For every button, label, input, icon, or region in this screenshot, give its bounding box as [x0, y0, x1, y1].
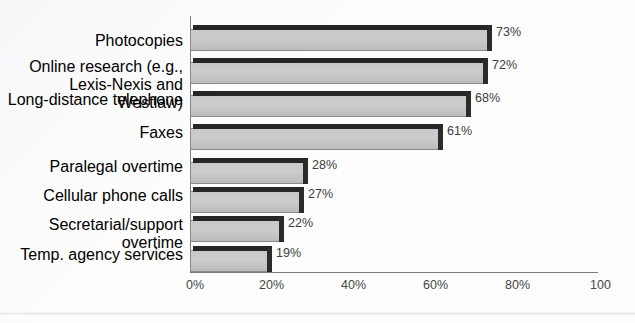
x-tick-label-20: 20%	[259, 278, 284, 292]
category-label-text: Faxes	[139, 124, 183, 141]
x-tick-label-60: 60%	[423, 278, 448, 292]
x-tick-label-0: 0%	[186, 278, 204, 292]
category-label-cellular-phone-calls: Cellular phone calls	[0, 187, 183, 205]
bar-temp-agency-services	[190, 250, 268, 272]
category-label-photocopies: Photocopies	[0, 32, 183, 50]
category-label-text: Cellular phone calls	[43, 187, 183, 204]
category-label-temp-agency-services: Temp. agency services	[0, 246, 183, 264]
bar-chart: Photocopies Online research (e.g., Lexis…	[0, 0, 635, 323]
bar-value-label: 19%	[276, 246, 301, 260]
x-tick-label-40: 40%	[341, 278, 366, 292]
category-label-paralegal-overtime: Paralegal overtime	[0, 158, 183, 176]
bar-faxes	[190, 128, 439, 150]
category-label-text: Photocopies	[95, 32, 183, 49]
category-label-text: Long-distance telephone	[8, 91, 183, 108]
x-tick-label-100: 100	[590, 278, 611, 292]
category-label-faxes: Faxes	[0, 124, 183, 142]
plot-area: 73% 72% 68% 61% 28% 27% 22% 19%	[190, 16, 598, 272]
bar-value-label: 27%	[308, 187, 333, 201]
bar-online-research	[190, 62, 484, 84]
bar-long-distance-telephone	[190, 95, 467, 117]
x-axis-line	[190, 272, 598, 273]
bar-value-label: 28%	[312, 158, 337, 172]
bar-value-label: 61%	[447, 124, 472, 138]
bar-photocopies	[190, 29, 488, 51]
category-label-text: Temp. agency services	[20, 246, 183, 263]
category-label-long-distance-telephone: Long-distance telephone	[0, 91, 183, 109]
bar-value-label: 72%	[492, 58, 517, 72]
bar-secretarial-support-overtime	[190, 220, 280, 242]
x-tick-label-80: 80%	[505, 278, 530, 292]
bar-value-label: 73%	[496, 25, 521, 39]
bar-paralegal-overtime	[190, 162, 304, 184]
bar-cellular-phone-calls	[190, 191, 300, 213]
page-scan-artifact	[0, 312, 635, 315]
category-label-text: Paralegal overtime	[50, 158, 183, 175]
bar-value-label: 22%	[288, 216, 313, 230]
bar-value-label: 68%	[475, 91, 500, 105]
